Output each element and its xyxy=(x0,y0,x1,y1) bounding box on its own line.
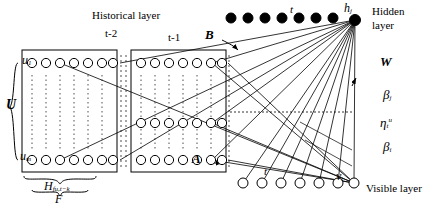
history-block-left-nodes xyxy=(27,58,117,164)
label-A: A xyxy=(192,152,201,165)
label-script-H-base: H xyxy=(44,179,53,193)
label-v-t: vt xyxy=(336,170,343,183)
diagram-canvas: Historical layer t-2 t-1 B t hj Hidden l… xyxy=(0,0,431,206)
history-vertical-ellipses xyxy=(32,75,211,150)
label-h-j: hj xyxy=(344,2,352,15)
label-beta-j: βj xyxy=(383,88,391,102)
label-beta-i: βi xyxy=(383,140,391,154)
label-script-F: F xyxy=(55,193,62,205)
history-dotted-separators xyxy=(121,55,229,168)
label-t-minus-2: t-2 xyxy=(105,28,117,39)
label-t-minus-1: t-1 xyxy=(168,32,180,43)
label-t-top: t xyxy=(290,4,293,15)
label-t-bottom: t xyxy=(264,166,267,177)
label-v-t-sub: t xyxy=(341,175,343,183)
label-visible-layer: Visible layer xyxy=(366,183,422,194)
label-hidden-layer-line2: layer xyxy=(372,20,394,31)
label-eta-sup: u xyxy=(388,116,392,124)
label-eta-t-u: ηtu xyxy=(380,116,392,130)
label-W: W xyxy=(380,55,392,68)
label-u-m: um xyxy=(20,150,31,163)
label-beta-i-sub: i xyxy=(389,146,391,154)
label-u-1-sub: 1 xyxy=(28,59,32,67)
label-u-1: u1 xyxy=(22,54,32,67)
history-block-right-nodes xyxy=(136,58,226,164)
diagram-svg xyxy=(0,0,431,206)
hidden-layer-nodes xyxy=(226,13,361,26)
label-U: U xyxy=(6,98,16,112)
label-u-m-sub: m xyxy=(26,155,31,163)
label-hidden-layer-line1: Hidden xyxy=(372,6,404,17)
label-h-j-sub: j xyxy=(350,7,352,15)
label-historical-layer: Historical layer xyxy=(92,10,160,21)
pointer-arrows xyxy=(208,40,356,163)
label-beta-j-sub: j xyxy=(389,94,391,102)
label-B: B xyxy=(205,28,214,41)
